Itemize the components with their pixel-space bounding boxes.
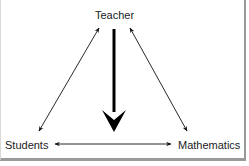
arrow-teacher-students [39, 28, 99, 131]
diagram-arrows [0, 0, 249, 166]
thick-arrow-head [102, 110, 126, 132]
arrow-teacher-mathematics [130, 28, 187, 131]
